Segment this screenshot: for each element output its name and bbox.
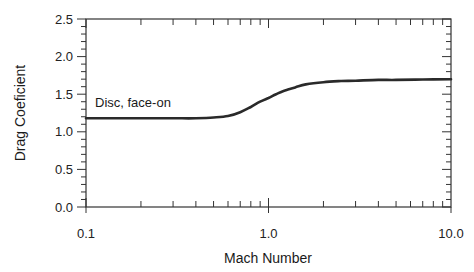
drag-coefficient-chart: 0.00.51.01.52.02.5 0.11.010.0 Disc, face… xyxy=(0,0,474,272)
y-axis-title: Drag Coeficient xyxy=(12,65,28,162)
x-tick-label: 10.0 xyxy=(438,226,463,241)
x-tick-labels: 0.11.010.0 xyxy=(77,226,464,241)
series-annotation: Disc, face-on xyxy=(95,95,171,110)
y-tick-label: 1.0 xyxy=(55,124,73,139)
axis-ticks xyxy=(77,19,451,213)
x-tick-label: 1.0 xyxy=(259,226,277,241)
y-tick-label: 1.5 xyxy=(55,87,73,102)
plot-frame xyxy=(86,19,451,207)
x-tick-label: 0.1 xyxy=(77,226,95,241)
y-tick-labels: 0.00.51.01.52.02.5 xyxy=(55,12,73,215)
y-tick-label: 0.5 xyxy=(55,162,73,177)
x-axis-title: Mach Number xyxy=(224,250,312,266)
y-tick-label: 2.5 xyxy=(55,12,73,27)
y-tick-label: 0.0 xyxy=(55,200,73,215)
y-tick-label: 2.0 xyxy=(55,49,73,64)
